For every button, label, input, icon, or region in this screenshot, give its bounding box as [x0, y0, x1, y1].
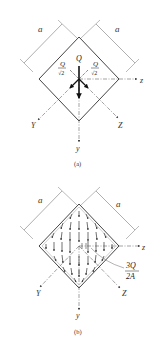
dotted-guide-left — [70, 70, 79, 79]
force-component-right-arrow — [79, 79, 88, 88]
axis-label-y-a: y — [75, 144, 80, 153]
panel-b: a a z y Y Z — [20, 187, 146, 336]
panel-a: a a z y Y Z Q Q √2 Q √2 (a) — [20, 20, 144, 168]
Y-axis-b — [40, 246, 79, 287]
dim-label-a-right: a — [115, 24, 120, 34]
annotation-denominator: 2A — [126, 272, 135, 281]
force-label-left-num: Q — [60, 60, 65, 68]
dotted-guide-right — [79, 70, 88, 79]
force-component-left-arrow — [70, 79, 79, 88]
caption-b: (b) — [74, 328, 82, 336]
shear-flow-diagram: a a z y Y Z Q Q √2 Q √2 (a) — [0, 0, 157, 343]
axis-label-Y-a: Y — [31, 121, 37, 130]
dimension-line-left-b — [24, 191, 62, 230]
axis-label-Z-b: Z — [122, 289, 127, 298]
dimension-line-left-a — [24, 24, 62, 63]
dim-label-a-left: a — [38, 24, 43, 34]
axis-label-z-b: z — [141, 243, 146, 252]
axis-label-y-b: y — [75, 311, 80, 320]
annotation-numerator: 3Q — [125, 261, 136, 270]
force-label-Q: Q — [76, 54, 82, 63]
dimension-line-right-b — [96, 191, 135, 230]
force-label-left-den: √2 — [58, 70, 64, 76]
axis-label-Z-a: Z — [118, 121, 123, 130]
dim-label-b-left: a — [38, 195, 43, 205]
axis-label-z-a: z — [139, 76, 144, 85]
caption-a: (a) — [74, 160, 81, 168]
force-label-right-den: √2 — [91, 70, 97, 76]
force-label-right-num: Q — [93, 60, 98, 68]
dim-label-b-right: a — [116, 199, 121, 209]
axis-label-Y-b: Y — [36, 289, 42, 298]
